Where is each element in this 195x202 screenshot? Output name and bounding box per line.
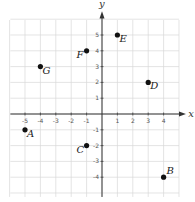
x-tick-label: -3	[53, 117, 59, 124]
coordinate-plane: xy-5-4-3-2-1123454321-1-2-3-4ABCDEFG	[0, 0, 195, 202]
x-tick-label: 4	[162, 117, 166, 124]
y-axis-arrow-icon	[100, 11, 105, 18]
x-axis-label: x	[188, 108, 194, 119]
x-tick-label: -1	[84, 117, 90, 124]
point-b	[161, 175, 166, 180]
y-tick-label: -4	[93, 173, 99, 180]
point-label-g: G	[42, 65, 50, 76]
x-tick-label: 1	[115, 117, 119, 124]
y-tick-label: 4	[95, 47, 99, 54]
x-tick-label: 2	[131, 117, 135, 124]
y-tick-label: -1	[93, 126, 99, 133]
y-tick-label: 1	[95, 94, 99, 101]
point-label-f: F	[76, 49, 85, 60]
y-tick-label: 2	[95, 78, 99, 85]
x-tick-label: -5	[22, 117, 28, 124]
x-tick-label: -2	[68, 117, 74, 124]
y-tick-label: 5	[95, 31, 99, 38]
x-axis-arrow-icon	[179, 112, 186, 117]
point-label-c: C	[77, 144, 85, 155]
point-label-a: A	[26, 128, 34, 139]
point-label-e: E	[118, 33, 127, 44]
x-tick-label: -4	[37, 117, 43, 124]
x-tick-label: 3	[146, 117, 150, 124]
y-axis-label: y	[98, 0, 105, 9]
point-f	[84, 48, 89, 53]
y-tick-label: 3	[95, 63, 99, 70]
y-tick-label: -2	[93, 142, 99, 149]
point-c	[84, 143, 89, 148]
point-label-d: D	[149, 80, 158, 91]
y-tick-label: -3	[93, 157, 99, 164]
point-label-b: B	[166, 165, 174, 176]
